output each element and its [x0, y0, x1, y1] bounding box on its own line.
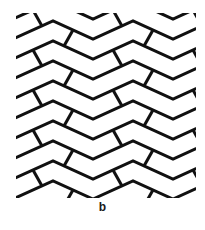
brick-connector-line [193, 10, 202, 26]
chevron-tessellation-pattern [0, 0, 205, 230]
brick-connector-line [33, 50, 42, 66]
brick-connector-line [64, 0, 73, 6]
brick-connector-line [144, 150, 153, 166]
brick-connector-line [64, 150, 73, 166]
zigzag-row-line [0, 21, 205, 39]
brick-connector-line [113, 90, 122, 106]
brick-connector-line [144, 110, 153, 126]
brick-connector-line [33, 10, 42, 26]
zigzag-row-line [0, 181, 205, 199]
zigzag-row-line [0, 101, 205, 119]
zigzag-row-line [0, 41, 205, 59]
brick-connector-line [193, 170, 202, 186]
zigzag-row-line [0, 81, 205, 99]
zigzag-row-line [0, 161, 205, 179]
brick-connector-line [113, 10, 122, 26]
brick-connector-line [144, 70, 153, 86]
zigzag-row-line [0, 121, 205, 139]
zigzag-row-line [0, 1, 205, 19]
brick-connector-line [64, 30, 73, 46]
brick-connector-line [33, 130, 42, 146]
brick-connector-line [193, 50, 202, 66]
brick-connector-line [144, 0, 153, 6]
brick-connector-line [33, 170, 42, 186]
brick-connector-line [144, 30, 153, 46]
zigzag-row-line [0, 221, 205, 230]
brick-connector-line [113, 50, 122, 66]
brick-connector-line [113, 170, 122, 186]
brick-connector-line [64, 70, 73, 86]
brick-connector-line [193, 90, 202, 106]
brick-connector-line [113, 130, 122, 146]
zigzag-row-line [0, 61, 205, 79]
zigzag-row-line [0, 141, 205, 159]
brick-connector-line [64, 110, 73, 126]
brick-connector-line [33, 90, 42, 106]
panel-label: b [0, 200, 205, 214]
brick-connector-line [193, 130, 202, 146]
